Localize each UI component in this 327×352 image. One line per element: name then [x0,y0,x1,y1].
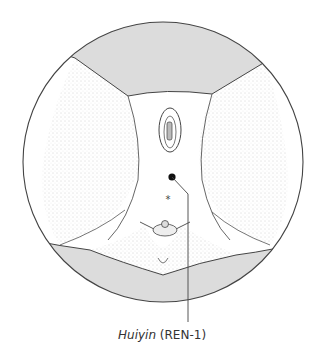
point-name: Huiyin [118,328,156,342]
point-code: (REN-1) [160,328,206,342]
point-label: Huiyin (REN-1) [118,328,206,342]
anatomical-illustration: * [0,0,327,352]
perineum-mark: * [166,194,171,205]
circular-view: * [0,0,327,352]
